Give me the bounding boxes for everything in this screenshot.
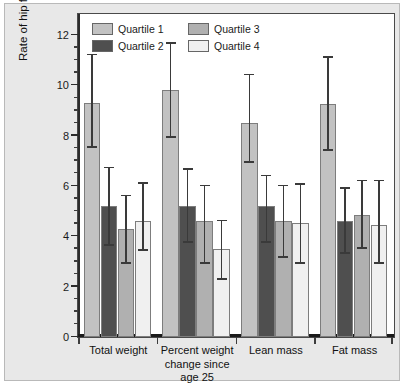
- error-bar: [344, 189, 346, 254]
- y-tick-minor: [74, 122, 78, 124]
- y-tick-major: [71, 134, 78, 136]
- y-tick-label: 2: [63, 281, 69, 293]
- y-axis-title: Rate of hip fracture/1,000 woman-years: [15, 0, 31, 70]
- y-tick-minor: [74, 159, 78, 161]
- error-bar-cap-lower: [200, 262, 210, 264]
- y-tick-major: [71, 185, 78, 187]
- y-tick-minor: [74, 172, 78, 174]
- y-tick-minor: [74, 323, 78, 325]
- error-bar-cap-upper: [340, 187, 350, 189]
- y-tick-label: 6: [63, 180, 69, 192]
- error-bar: [91, 55, 93, 148]
- error-bar: [204, 186, 206, 264]
- y-tick-label: 8: [63, 130, 69, 142]
- error-bar-cap-lower: [183, 241, 193, 243]
- y-tick-minor: [74, 310, 78, 312]
- y-tick-minor: [74, 273, 78, 275]
- error-bar-cap-lower: [295, 262, 305, 264]
- error-bar-cap-upper: [87, 54, 97, 56]
- error-bar-cap-lower: [166, 136, 176, 138]
- figure-panel: Quartile 1Quartile 2Quartile 3Quartile 4…: [4, 3, 400, 381]
- y-tick-minor: [74, 97, 78, 99]
- error-bar: [108, 168, 110, 246]
- error-bar-cap-lower: [374, 262, 384, 264]
- error-bar: [249, 75, 251, 163]
- y-tick-minor: [74, 210, 78, 212]
- x-axis-group-label: Fat mass: [307, 344, 402, 358]
- error-bar: [361, 181, 363, 249]
- y-tick-minor: [74, 247, 78, 249]
- error-bar-cap-upper: [244, 74, 254, 76]
- x-group-separator-tick: [78, 337, 80, 344]
- error-bar-cap-upper: [323, 56, 333, 58]
- error-bar-cap-lower: [323, 149, 333, 151]
- error-bar-cap-lower: [357, 247, 367, 249]
- error-bar-cap-upper: [217, 220, 227, 222]
- error-bar-cap-lower: [278, 256, 288, 258]
- error-bar-cap-upper: [183, 168, 193, 170]
- x-group-separator-tick: [236, 337, 238, 344]
- error-bar-cap-upper: [138, 182, 148, 184]
- y-tick-minor: [74, 59, 78, 61]
- error-bar: [327, 58, 329, 151]
- y-tick-minor: [74, 147, 78, 149]
- y-tick-minor: [74, 260, 78, 262]
- y-tick-major: [71, 34, 78, 36]
- error-bar-cap-upper: [374, 180, 384, 182]
- x-axis-group-label-line: Fat mass: [307, 344, 402, 358]
- y-tick-label: 0: [63, 331, 69, 343]
- error-bar-cap-upper: [295, 183, 305, 185]
- error-bar: [378, 181, 380, 264]
- x-group-separator-tick: [157, 337, 159, 344]
- error-bar: [170, 44, 172, 138]
- x-axis-group-label-line: age 25: [150, 371, 245, 385]
- y-tick-minor: [74, 46, 78, 48]
- error-bar-cap-upper: [121, 195, 131, 197]
- error-bar-cap-lower: [87, 146, 97, 148]
- error-bar-cap-lower: [261, 241, 271, 243]
- y-tick-major: [71, 336, 78, 338]
- error-bar: [187, 170, 189, 243]
- error-bar-cap-upper: [104, 167, 114, 169]
- y-tick-minor: [74, 197, 78, 199]
- y-tick-minor: [74, 222, 78, 224]
- error-bar: [266, 176, 268, 243]
- error-bar: [142, 184, 144, 252]
- error-bar-cap-upper: [200, 185, 210, 187]
- error-bar-cap-lower: [244, 161, 254, 163]
- error-bar: [283, 186, 285, 258]
- error-bar-cap-lower: [104, 244, 114, 246]
- error-bar-cap-lower: [217, 278, 227, 280]
- error-bar: [300, 185, 302, 264]
- error-bar: [125, 196, 127, 264]
- error-bar-cap-upper: [166, 42, 176, 44]
- y-tick-major: [71, 235, 78, 237]
- y-tick-label: 12: [57, 29, 69, 41]
- y-tick-major: [71, 285, 78, 287]
- y-tick-minor: [74, 109, 78, 111]
- y-tick-label: 4: [63, 230, 69, 242]
- plot-frame: Quartile 1Quartile 2Quartile 3Quartile 4…: [77, 13, 395, 338]
- y-tick-label: 10: [57, 79, 69, 91]
- error-bar-cap-upper: [357, 180, 367, 182]
- y-axis-line: [78, 14, 80, 337]
- error-bar-cap-lower: [340, 252, 350, 254]
- y-tick-minor: [74, 298, 78, 300]
- error-bar-cap-lower: [138, 249, 148, 251]
- x-group-separator-tick: [314, 337, 316, 344]
- x-axis-group-label-line: change since: [150, 358, 245, 372]
- error-bar-cap-upper: [261, 175, 271, 177]
- error-bar-cap-lower: [121, 262, 131, 264]
- y-tick-major: [71, 84, 78, 86]
- x-group-separator-tick: [391, 337, 393, 344]
- axis-area: 024681012: [78, 14, 394, 337]
- error-bar-cap-upper: [278, 185, 288, 187]
- error-bar: [221, 221, 223, 280]
- y-tick-minor: [74, 71, 78, 73]
